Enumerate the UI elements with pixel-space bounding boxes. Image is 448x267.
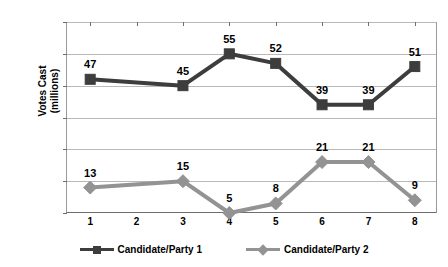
legend-square-marker-icon (93, 246, 101, 254)
line-chart: Votes Cast (millions) 5152535455565 1234… (0, 0, 448, 267)
legend: Candidate/Party 1Candidate/Party 2 (0, 240, 448, 258)
series-marker (84, 181, 97, 194)
data-label: 45 (166, 65, 200, 77)
data-label: 8 (259, 182, 293, 194)
data-label: 51 (398, 46, 432, 58)
legend-label: Candidate/Party 2 (284, 244, 368, 255)
legend-swatch (80, 243, 114, 255)
y-axis-title-line-2: (millions) (49, 43, 61, 139)
data-label: 39 (351, 84, 385, 96)
legend-item[interactable]: Candidate/Party 1 (80, 243, 202, 255)
plot-area: 5152535455565 12345678 47455552393951131… (66, 22, 437, 213)
data-label: 55 (212, 33, 246, 45)
series-marker (178, 81, 188, 91)
series-marker (363, 100, 373, 110)
series-marker (224, 49, 234, 59)
x-axis-tick-label: 3 (168, 216, 198, 227)
data-label: 47 (73, 58, 107, 70)
x-axis-tick-label: 2 (122, 216, 152, 227)
data-label: 5 (212, 192, 246, 204)
data-label: 52 (259, 42, 293, 54)
data-label: 9 (398, 179, 432, 191)
x-axis-tick-label: 6 (307, 216, 337, 227)
data-label: 21 (351, 141, 385, 153)
series-lines (67, 22, 438, 213)
legend-swatch (246, 243, 280, 255)
legend-diamond-marker-icon (257, 244, 268, 255)
data-label: 13 (73, 167, 107, 179)
legend-label: Candidate/Party 1 (118, 244, 202, 255)
y-axis-title: Votes Cast (millions) (37, 43, 63, 139)
series-line (90, 54, 415, 105)
series-marker (410, 62, 420, 72)
series-marker (317, 100, 327, 110)
legend-item[interactable]: Candidate/Party 2 (246, 243, 368, 255)
x-axis-tick-label: 5 (261, 216, 291, 227)
x-axis-tick-label: 1 (75, 216, 105, 227)
x-axis-tick-label: 7 (353, 216, 383, 227)
y-axis-tick-mark (63, 213, 67, 214)
data-label: 21 (305, 141, 339, 153)
data-label: 39 (305, 84, 339, 96)
data-label: 15 (166, 160, 200, 172)
series-marker (271, 58, 281, 68)
series-line (90, 162, 415, 213)
x-axis-tick-label: 8 (400, 216, 430, 227)
series-marker (85, 74, 95, 84)
y-axis-title-line-1: Votes Cast (37, 43, 49, 139)
